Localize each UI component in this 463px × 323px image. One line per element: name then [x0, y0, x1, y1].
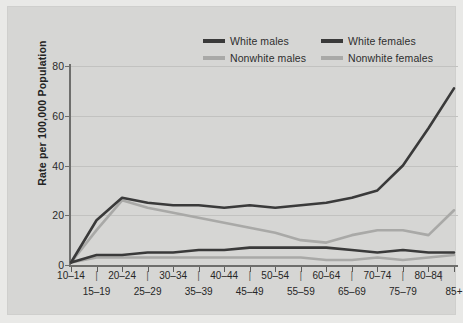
- x-axis-label-50-54: 50–54: [261, 270, 289, 281]
- x-axis-label-60-64: 60–64: [312, 270, 340, 281]
- legend-swatch-nonwhite-males: [203, 56, 225, 60]
- x-label-separator: |: [146, 270, 149, 281]
- x-label-separator: |: [248, 270, 251, 281]
- series-line-white-males: [71, 88, 454, 262]
- x-axis-label-35-39: 35–39: [185, 286, 213, 297]
- legend-label-nonwhite-males: Nonwhite males: [230, 52, 306, 64]
- x-axis-label-70-74: 70–74: [363, 270, 391, 281]
- chart-plate: White males White females Nonwhite males…: [7, 6, 456, 315]
- x-axis-label-65-69: 65–69: [338, 286, 366, 297]
- series-lines: [69, 64, 458, 267]
- x-axis-label-15-19: 15–19: [83, 286, 111, 297]
- x-axis-label-85+: 85+: [446, 286, 463, 297]
- legend-label-nonwhite-females: Nonwhite females: [348, 52, 433, 64]
- x-axis-label-30-34: 30–34: [159, 270, 187, 281]
- legend-swatch-white-males: [203, 39, 225, 43]
- x-axis-label-25-29: 25–29: [134, 286, 162, 297]
- x-axis-label-40-44: 40–44: [210, 270, 238, 281]
- x-label-separator: |: [402, 270, 405, 281]
- series-line-nonwhite-females: [71, 255, 454, 262]
- chart-figure: White males White females Nonwhite males…: [0, 0, 463, 323]
- x-label-separator: |: [197, 270, 200, 281]
- x-label-separator: |: [299, 270, 302, 281]
- chart-legend: White males White females Nonwhite males…: [203, 32, 445, 66]
- plot-area: 020406080: [69, 64, 458, 267]
- x-axis-label-20-24: 20–24: [108, 270, 136, 281]
- x-axis-label-80-84: 80–84: [415, 270, 443, 281]
- x-label-separator: |: [351, 270, 354, 281]
- x-label-separator: |: [440, 270, 443, 281]
- x-axis-labels: 10–1415–1920–2425–2930–3435–3940–4445–49…: [7, 270, 463, 316]
- y-tick-label-80: 80: [52, 60, 64, 72]
- x-axis-label-75-79: 75–79: [389, 286, 417, 297]
- y-tick-label-60: 60: [52, 110, 64, 122]
- y-tick-label-40: 40: [52, 160, 64, 172]
- legend-item-white-males: White males: [203, 35, 321, 47]
- y-axis-title: Rate per 100,000 Population: [36, 15, 48, 211]
- legend-swatch-nonwhite-females: [321, 56, 343, 60]
- x-axis-label-55-59: 55–59: [287, 286, 315, 297]
- legend-label-white-males: White males: [230, 35, 289, 47]
- x-axis-label-10-14: 10–14: [57, 270, 85, 281]
- legend-item-nonwhite-females: Nonwhite females: [321, 52, 445, 64]
- y-tick-label-20: 20: [52, 209, 64, 221]
- x-axis-label-45-49: 45–49: [236, 286, 264, 297]
- legend-swatch-white-females: [321, 39, 343, 43]
- legend-item-white-females: White females: [321, 35, 445, 47]
- legend-label-white-females: White females: [348, 35, 416, 47]
- x-label-separator: |: [95, 270, 98, 281]
- legend-item-nonwhite-males: Nonwhite males: [203, 52, 321, 64]
